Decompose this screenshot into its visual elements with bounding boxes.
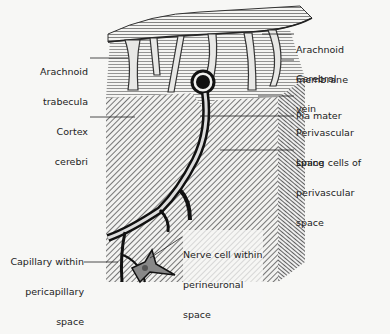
label-line: trabecula: [8, 97, 88, 107]
label-line: perineuronal: [183, 280, 263, 290]
label-line: space: [183, 310, 263, 320]
label-line: Perivascular: [296, 128, 354, 138]
label-line: Capillary within: [4, 257, 84, 267]
label-line: Cerebral: [296, 74, 336, 84]
label-line: cerebri: [18, 157, 88, 167]
label-line: perivascular: [296, 188, 361, 198]
label-capillary: Capillary within pericapillary space: [4, 237, 84, 334]
label-line: pericapillary: [4, 287, 84, 297]
label-line: Arachnoid: [8, 67, 88, 77]
cerebral-vein: [192, 71, 214, 93]
label-line: Cortex: [18, 127, 88, 137]
label-line: Nerve cell within: [183, 250, 263, 260]
label-cortex-cerebri: Cortex cerebri: [18, 107, 88, 177]
label-lining-cells: Lining cells of perivascular space: [296, 138, 361, 238]
label-line: space: [4, 317, 84, 327]
label-line: Lining cells of: [296, 158, 361, 168]
label-nerve-cell: Nerve cell within perineuronal space: [183, 230, 263, 330]
label-line: space: [296, 218, 361, 228]
